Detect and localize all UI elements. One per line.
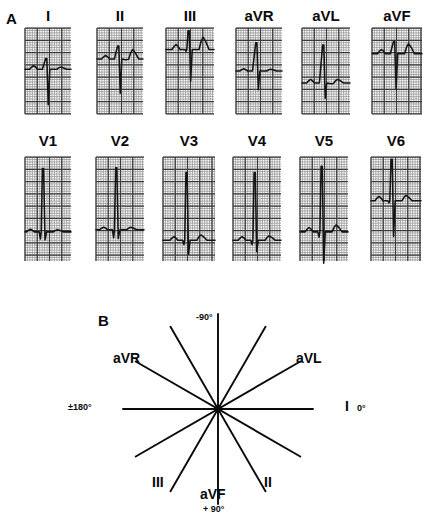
lead-ii-strip bbox=[97, 28, 143, 114]
axis-plus-minus-180: ±180° bbox=[68, 402, 92, 412]
axis-plus-90: + 90° bbox=[203, 504, 224, 514]
axis-avf: aVF bbox=[200, 486, 226, 502]
axis-minus-90: -90° bbox=[196, 312, 213, 322]
hexaxial-center-dot bbox=[215, 406, 221, 412]
lead-v4-label: V4 bbox=[233, 133, 281, 148]
axis-ii: II bbox=[264, 474, 272, 490]
axis-avl: aVL bbox=[296, 350, 322, 366]
lead-v2-label: V2 bbox=[96, 133, 144, 148]
lead-avr-strip bbox=[236, 28, 282, 114]
lead-v2-strip bbox=[96, 157, 144, 261]
lead-v1-label: V1 bbox=[25, 133, 71, 148]
lead-avl-label: aVL bbox=[302, 8, 350, 23]
axis-lead-i: I bbox=[345, 398, 349, 414]
axis-avr: aVR bbox=[113, 350, 140, 366]
lead-v1-strip bbox=[25, 157, 71, 261]
axis-zero: 0° bbox=[357, 403, 366, 413]
lead-i-strip bbox=[25, 28, 71, 114]
lead-avf-strip bbox=[372, 28, 422, 114]
lead-avl-strip bbox=[302, 28, 350, 114]
lead-avf-label: aVF bbox=[372, 8, 422, 23]
hexaxial-reference-diagram: -90°aVRaVL±180°I0°IIIaVF+ 90°II bbox=[0, 290, 446, 528]
lead-v3-label: V3 bbox=[163, 133, 215, 148]
lead-avr-label: aVR bbox=[236, 8, 282, 23]
panel-a-letter: A bbox=[6, 10, 17, 27]
lead-v4-strip bbox=[233, 157, 281, 261]
lead-iii-label: III bbox=[166, 8, 214, 23]
lead-v6-strip bbox=[371, 157, 421, 261]
axis-iii: III bbox=[152, 474, 164, 490]
lead-ii-label: II bbox=[97, 8, 143, 23]
lead-v5-label: V5 bbox=[300, 133, 348, 148]
lead-iii-strip bbox=[166, 28, 214, 114]
lead-v6-label: V6 bbox=[371, 133, 421, 148]
lead-v3-strip bbox=[163, 157, 215, 261]
lead-i-label: I bbox=[25, 8, 71, 23]
lead-v5-strip bbox=[300, 157, 348, 261]
